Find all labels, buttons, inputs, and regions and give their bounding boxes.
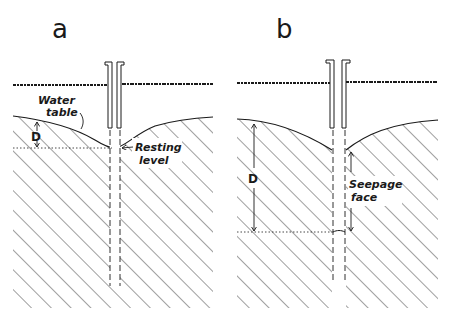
- saturated-zone-hatching-right: [340, 110, 440, 310]
- water-table-leader-line: [80, 113, 83, 129]
- depth-d-label: D: [31, 130, 41, 144]
- borehole-outline: [110, 130, 120, 286]
- depth-d-label: D: [248, 172, 258, 186]
- water-table-label-line2: table: [46, 106, 78, 119]
- ground-surface-line: [13, 84, 213, 85]
- resting-level-label-line2: level: [139, 154, 169, 167]
- borehole-outline: [333, 130, 345, 280]
- well-casing: [105, 62, 124, 128]
- saturated-zone-hatching-left: [237, 110, 337, 310]
- seepage-face-label-line1: Seepage: [349, 178, 403, 191]
- panel-a: a D Water table: [13, 14, 213, 310]
- resting-level-label-line1: Resting: [135, 141, 182, 154]
- well-drawdown-diagram: a D Water table: [0, 0, 451, 324]
- ground-surface-line: [237, 82, 438, 83]
- well-casing: [326, 60, 350, 128]
- panel-b: b D: [237, 14, 440, 310]
- seepage-face-label-line2: face: [351, 191, 378, 204]
- panel-a-label: a: [52, 14, 68, 44]
- panel-b-label: b: [276, 14, 293, 44]
